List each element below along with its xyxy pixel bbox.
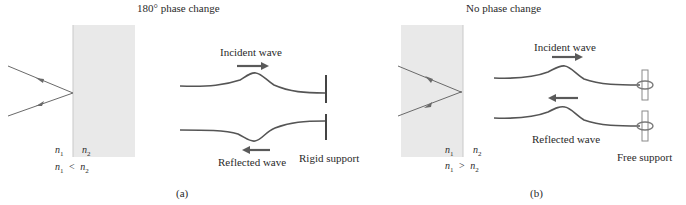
panel-b-support-label: Free support [617,152,672,163]
incident-pulse-string-a [180,73,325,93]
arrowhead-right-icon-a [261,62,269,70]
reflected-ray-arrow-icon-a [36,78,44,83]
panel-a-caption: (a) [176,188,188,199]
panel-a-title: 180° phase change [137,3,220,14]
panel-b-optics [398,25,463,157]
medium-slab-b [401,25,463,157]
panel-a-incident-label: Incident wave [220,47,282,58]
panel-a-reflected-label: Reflected wave [218,157,286,168]
relation-rhs-sub: 2 [475,166,479,174]
panel-b-caption: (b) [530,188,543,199]
relation-lhs-sub: 1 [450,166,454,174]
panel-a-string [180,62,326,154]
arrowhead-right-icon-b [575,53,583,61]
panel-a-n2-label: n2 [82,145,91,158]
panel-b-reflected-label: Reflected wave [532,134,600,145]
relation-lhs-sub: 1 [60,167,64,175]
panel-a-support-label: Rigid support [299,153,359,164]
panel-b-n1-label: n1 [445,145,454,158]
reflection-point-b [460,91,462,93]
arrowhead-left-icon-b [548,94,556,102]
panel-a-optics [8,25,135,157]
n2-subscript: 2 [478,150,482,158]
reflected-pulse-string-a [180,121,325,141]
n1-subscript: 1 [450,150,454,158]
n1-subscript: 1 [60,150,64,158]
panel-b-title: No phase change [466,3,541,14]
relation-rhs-sub: 2 [85,167,89,175]
panel-b-incident-label: Incident wave [534,42,596,53]
diagram-canvas [0,0,686,205]
n2-subscript: 2 [87,150,91,158]
panel-a-n1-label: n1 [55,145,64,158]
panel-a-index-relation: n1 < n2 [55,162,89,175]
panel-b-string [494,53,653,141]
relation-operator: > [459,160,465,171]
incident-ray-arrow-icon-a [36,101,44,106]
panel-b-n2-label: n2 [473,145,482,158]
medium-slab-a [73,25,135,157]
incident-pulse-string-b [494,66,640,85]
panel-b-index-relation: n1 > n2 [445,161,479,174]
relation-operator: < [69,161,75,172]
arrowhead-left-icon-a [242,146,250,154]
reflected-pulse-string-b [494,107,640,126]
